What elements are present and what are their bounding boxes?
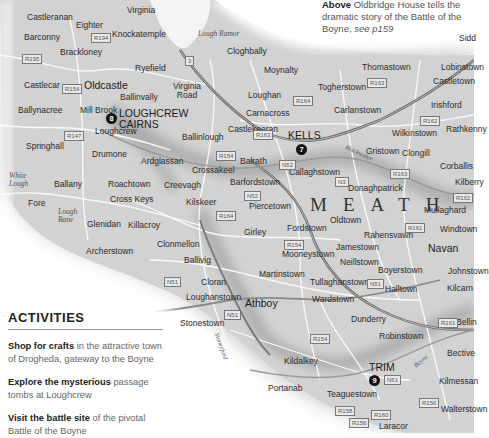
place-label: Crossakeel	[192, 166, 235, 175]
place-label: Knockatemple	[112, 30, 166, 39]
road-number-label: R194	[91, 33, 111, 43]
road-number-label: N52	[244, 191, 261, 201]
place-label: Corballis	[440, 162, 473, 171]
place-label: Castletown	[433, 77, 475, 86]
place-label: Mill Brook	[80, 106, 117, 115]
site-label-trim[interactable]: TRIM	[369, 362, 395, 373]
place-label: Ballinlough	[182, 133, 224, 142]
place-label: Oldcastle	[84, 80, 128, 91]
place-label: Killacroy	[128, 221, 160, 230]
place-label: Wardstown	[312, 295, 354, 304]
place-label: Piercetown	[249, 202, 291, 211]
road-number-label: R164	[216, 211, 236, 221]
place-label: Castlecar	[24, 81, 60, 90]
activity-title: Shop for crafts	[8, 341, 74, 351]
activities-panel: ACTIVITIES Shop for crafts in the attrac…	[8, 310, 163, 438]
road-number-label: R163	[390, 169, 410, 179]
place-label: Loughan	[248, 91, 281, 100]
place-label: Kilberry	[455, 178, 484, 187]
road-number-label: R161	[405, 223, 425, 233]
road-number-label: R162	[420, 116, 440, 126]
place-label: Neillstown	[340, 258, 379, 267]
place-label: Halltown	[385, 285, 418, 294]
photo-caption: Above Oldbridge House tells the dramatic…	[322, 0, 474, 35]
place-label: Rathkenny	[446, 125, 487, 134]
place-label: Ardglassan	[141, 157, 184, 166]
place-label: Lobinstown	[441, 63, 484, 72]
place-label: Fordstown	[287, 224, 327, 233]
place-label: Kilcarn	[447, 284, 473, 293]
place-label: Virginia	[127, 6, 155, 15]
place-label: Robinstown	[379, 332, 423, 341]
place-label: Dunderry	[351, 315, 386, 324]
place-label: Togherstown	[318, 83, 366, 92]
place-label: Carlanstown	[334, 106, 381, 115]
place-label: Cross Keys	[110, 195, 153, 204]
road-number-label: R154	[310, 334, 330, 344]
place-label: Eighter	[76, 21, 103, 30]
road-number-label: N51	[164, 277, 181, 287]
place-label: Ballivig	[184, 256, 211, 265]
road-number-label: R163	[253, 130, 273, 140]
road-number-label: R195	[22, 54, 42, 64]
site-marker-7[interactable]: 7	[296, 144, 307, 155]
place-label: Cloran	[201, 278, 226, 287]
place-label: Walterstown	[441, 405, 487, 414]
place-label: Irishford	[431, 101, 462, 110]
place-label: Brackloney	[60, 48, 102, 57]
site-marker-9[interactable]: 9	[369, 375, 380, 386]
place-label: Loughcrew	[95, 127, 137, 136]
activity-title: Explore the mysterious	[8, 377, 111, 387]
place-label: Windtown	[440, 225, 477, 234]
place-label: Ballynacree	[18, 106, 62, 115]
place-label: Donaghpatrick	[348, 184, 403, 193]
place-label: Balrath	[240, 157, 267, 166]
road-number-label: R162	[453, 193, 473, 203]
activity-title: Visit the battle site	[8, 413, 90, 423]
place-label: Barfordstown	[230, 178, 280, 187]
lake-label: Lough Bane	[58, 208, 80, 223]
place-label: Mooneystown	[282, 250, 334, 259]
caption-bold: Above	[322, 0, 351, 10]
place-label: Fore	[28, 199, 45, 208]
place-label: Ryefield	[135, 64, 166, 73]
place-label: Wilkinstown	[392, 129, 437, 138]
site-label-kells[interactable]: KELLS	[288, 130, 321, 141]
place-label: Gristown	[366, 147, 400, 156]
road-number-label: R156	[349, 418, 369, 428]
place-label: Springhall	[26, 142, 64, 151]
road-number-label: R154	[216, 151, 236, 161]
place-label: Martinstown	[259, 270, 305, 279]
place-label: Drumone	[92, 150, 127, 159]
place-label: Creevagh	[164, 181, 201, 190]
place-label: Ballinvally	[120, 93, 158, 102]
place-label: Kilskeer	[186, 198, 216, 207]
place-label: Ballany	[54, 180, 82, 189]
road-number-label: N51	[384, 375, 401, 385]
road-number-label: R160	[371, 410, 391, 420]
road-number-label: R154	[62, 84, 82, 94]
place-label: Virginia Road	[172, 82, 202, 99]
activity-item: Shop for crafts in the attractive town o…	[8, 340, 163, 366]
place-label: Moynalty	[264, 66, 298, 75]
place-label: Archerstown	[86, 247, 133, 256]
place-label: Callaghstown	[289, 168, 340, 177]
site-label-loughcrew[interactable]: LOUGHCREW	[119, 108, 188, 119]
road-number-label: N3	[335, 177, 349, 187]
place-label: Kildalkey	[284, 357, 318, 366]
place-label: Navan	[428, 243, 458, 254]
road-number-label: R147	[64, 131, 84, 141]
place-label: Glenidan	[87, 220, 121, 229]
activities-heading: ACTIVITIES	[8, 310, 163, 330]
activity-item: Explore the mysterious passage tombs at …	[8, 376, 163, 402]
place-label: Jamestown	[336, 243, 379, 252]
place-label: Cloghbally	[227, 47, 267, 56]
road-number-label: N52	[279, 160, 296, 170]
place-label: Clongill	[402, 149, 430, 158]
place-label: Portanab	[268, 384, 303, 393]
lake-label: Lough Ramor	[198, 30, 228, 38]
place-label: Bellin	[456, 318, 477, 327]
road-number-label: R161	[438, 318, 458, 328]
road-number-label: R164	[293, 96, 313, 106]
place-label: Mullaghard	[424, 206, 466, 215]
